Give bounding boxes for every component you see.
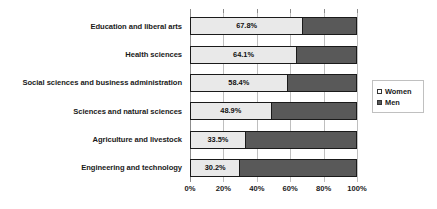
chart-legend: WomenMen [372, 80, 424, 113]
legend-label: Women [385, 87, 412, 96]
bar-segment-women[interactable] [190, 131, 246, 149]
bar-segment-men[interactable] [297, 46, 357, 64]
bar-row: 48.9% [190, 102, 357, 120]
bar-segment-men[interactable] [288, 74, 357, 92]
x-axis-tick-label: 80% [309, 184, 339, 193]
bar-segment-men[interactable] [272, 102, 357, 120]
x-axis-tick-label: 100% [342, 184, 372, 193]
gridline-100pct [357, 12, 358, 182]
bar-row: 67.8% [190, 17, 357, 35]
bar-row: 58.4% [190, 74, 357, 92]
bar-segment-women[interactable] [190, 159, 240, 177]
legend-entry-women[interactable]: Women [377, 86, 420, 96]
bar-series-group: 67.8%64.1%58.4%48.9%33.5%30.2% [190, 12, 357, 182]
bar-segment-men[interactable] [240, 159, 357, 177]
legend-label: Men [385, 98, 400, 107]
category-axis: Education and liberal artsHealth science… [0, 12, 186, 182]
bar-segment-women[interactable] [190, 102, 272, 120]
stacked-bar-chart: Education and liberal artsHealth science… [0, 0, 437, 209]
bar-row: 30.2% [190, 159, 357, 177]
value-axis: 0%20%40%60%80%100% [190, 184, 357, 200]
bar-segment-men[interactable] [246, 131, 357, 149]
category-label: Engineering and technology [0, 163, 182, 172]
bar-segment-men[interactable] [303, 17, 357, 35]
category-label: Education and liberal arts [0, 22, 182, 31]
legend-entry-men[interactable]: Men [377, 97, 420, 107]
x-axis-tick-label: 20% [208, 184, 238, 193]
tickmark-100pct [357, 9, 358, 13]
bar-row: 64.1% [190, 46, 357, 64]
x-axis-tick-label: 60% [275, 184, 305, 193]
plot-area: 67.8%64.1%58.4%48.9%33.5%30.2% [190, 12, 357, 182]
x-axis-tick-label: 0% [175, 184, 205, 193]
women-swatch-icon [377, 89, 382, 94]
bar-segment-women[interactable] [190, 17, 303, 35]
x-axis-tick-label: 40% [242, 184, 272, 193]
bar-row: 33.5% [190, 131, 357, 149]
men-swatch-icon [377, 100, 382, 105]
category-label: Agriculture and livestock [0, 135, 182, 144]
bar-segment-women[interactable] [190, 46, 297, 64]
category-label: Health sciences [0, 50, 182, 59]
category-label: Sciences and natural sciences [0, 107, 182, 116]
bar-segment-women[interactable] [190, 74, 288, 92]
category-label: Social sciences and business administrat… [0, 78, 182, 87]
